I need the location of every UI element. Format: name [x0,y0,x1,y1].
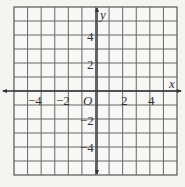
x-axis-label: x [168,76,175,91]
x-tick-label: 2 [121,93,128,108]
x-tick-label: 4 [148,93,155,108]
coordinate-plane: y x O −4 −2 2 4 4 2 −2 −4 [0,0,185,187]
y-axis-label: y [98,7,106,22]
y-tick-label: 2 [87,57,94,72]
y-tick-label: −4 [80,140,94,155]
x-tick-label: −4 [28,93,42,108]
y-tick-label: −2 [80,113,94,128]
y-tick-label: 4 [87,29,94,44]
x-tick-label: −2 [56,93,70,108]
origin-label: O [83,93,93,108]
x-axis-left-arrow-icon [2,89,7,93]
x-axis-right-arrow-icon [177,89,182,93]
